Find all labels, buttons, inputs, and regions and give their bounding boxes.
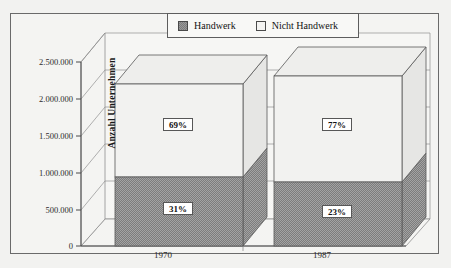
left-wall <box>81 33 105 246</box>
data-label-1970-nicht-handwerk: 69% <box>163 118 193 131</box>
y-tick-label-2500000: 2.500.000 <box>11 57 73 67</box>
nicht-handwerk-swatch-icon <box>256 21 266 31</box>
bar-1987-top-face <box>274 47 426 76</box>
y-tick-label-2000000: 2.000.000 <box>11 94 73 104</box>
plot-svg <box>11 14 440 255</box>
legend-entry-nicht-handwerk[interactable]: Nicht Handwerk <box>256 20 338 31</box>
chart-legend: Handwerk Nicht Handwerk <box>167 13 359 38</box>
data-label-1970-handwerk: 31% <box>163 202 193 215</box>
plot-area <box>11 14 440 255</box>
bar-1970-top-face <box>115 55 267 84</box>
chart-screenshot: Anzahl Unternehmen 2.500.000 2.000.000 1… <box>0 0 451 268</box>
y-tick-label-0: 0 <box>11 241 73 251</box>
y-tick-label-500000: 500.000 <box>11 205 73 215</box>
y-tick-label-1500000: 1.500.000 <box>11 131 73 141</box>
data-label-1987-handwerk: 23% <box>322 205 352 218</box>
data-label-1987-nicht-handwerk: 77% <box>322 118 352 131</box>
chart-frame: Anzahl Unternehmen 2.500.000 2.000.000 1… <box>10 13 439 254</box>
legend-entry-handwerk[interactable]: Handwerk <box>178 20 236 31</box>
bar-1970 <box>115 55 267 246</box>
legend-label-handwerk: Handwerk <box>194 20 236 31</box>
y-tick-label-1000000: 1.000.000 <box>11 168 73 178</box>
y-axis-ticks <box>76 62 81 246</box>
x-tick-label-1987: 1987 <box>292 250 352 260</box>
y-axis-title: Anzahl Unternehmen <box>107 38 121 168</box>
x-tick-label-1970: 1970 <box>133 250 193 260</box>
legend-label-nicht-handwerk: Nicht Handwerk <box>272 20 338 31</box>
handwerk-swatch-icon <box>178 21 188 31</box>
